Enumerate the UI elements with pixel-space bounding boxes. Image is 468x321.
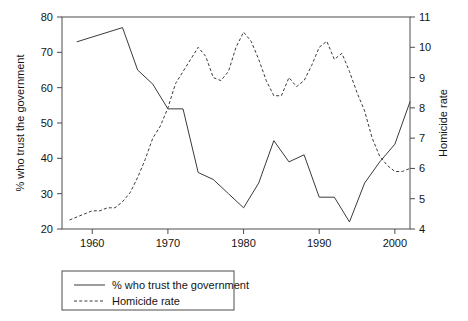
y2-axis-tick-label: 6 xyxy=(419,162,425,174)
y-axis-tick-label: 80 xyxy=(41,11,53,23)
y-axis-tick-label: 40 xyxy=(41,152,53,164)
y2-axis-tick-label: 7 xyxy=(419,132,425,144)
x-axis-tick-label: 1980 xyxy=(231,237,255,249)
y-axis-tick-label: 60 xyxy=(41,82,53,94)
y2-axis-tick-label: 10 xyxy=(419,41,431,53)
y2-axis-tick-label: 9 xyxy=(419,72,425,84)
y2-axis-tick-label: 5 xyxy=(419,193,425,205)
legend-label-trust-government: % who trust the government xyxy=(112,279,249,291)
chart-container: 1960197019801990200020304050607080456789… xyxy=(0,0,468,321)
y-axis-tick-label: 50 xyxy=(41,117,53,129)
x-axis-tick-label: 2000 xyxy=(383,237,407,249)
y-axis-tick-label: 30 xyxy=(41,188,53,200)
y2-axis-title: Homicide rate xyxy=(437,89,449,157)
line-chart: 1960197019801990200020304050607080456789… xyxy=(0,0,468,321)
series-line-trust-government xyxy=(77,28,410,222)
x-axis-tick-label: 1970 xyxy=(156,237,180,249)
y-axis-tick-label: 20 xyxy=(41,223,53,235)
x-axis-tick-label: 1960 xyxy=(80,237,104,249)
y2-axis-tick-label: 4 xyxy=(419,223,425,235)
x-axis-tick-label: 1990 xyxy=(307,237,331,249)
series-line-homicide-rate xyxy=(70,32,410,220)
legend-label-homicide-rate: Homicide rate xyxy=(112,295,180,307)
y2-axis-tick-label: 11 xyxy=(419,11,430,23)
y-axis-title: % who trust the government xyxy=(14,55,26,192)
y2-axis-tick-label: 8 xyxy=(419,102,425,114)
y-axis-tick-label: 70 xyxy=(41,46,53,58)
